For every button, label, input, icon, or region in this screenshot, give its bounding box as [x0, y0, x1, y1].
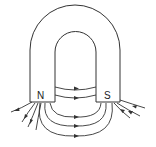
arrow-icons: [74, 87, 79, 139]
field-lines-inner: [39, 87, 112, 136]
field-lines-right: [114, 100, 145, 118]
horseshoe-magnet-diagram: N S: [0, 0, 156, 147]
south-pole-label: S: [104, 90, 111, 101]
north-pole-label: N: [37, 90, 44, 101]
